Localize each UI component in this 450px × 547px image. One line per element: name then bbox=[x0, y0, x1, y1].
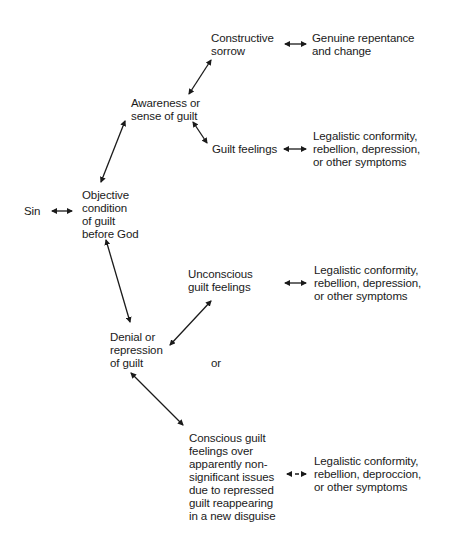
node-constructive-sorrow: Constructive sorrow bbox=[211, 32, 274, 58]
node-guilt-feelings: Guilt feelings bbox=[212, 143, 277, 156]
node-objective-condition: Objective condition of guilt before God bbox=[82, 189, 139, 241]
node-awareness: Awareness or sense of guilt bbox=[131, 97, 200, 123]
arrow-awareness-constructive bbox=[189, 60, 211, 94]
arrow-objective-denial bbox=[106, 240, 130, 322]
node-conscious-guilt: Conscious guilt feelings over apparently… bbox=[189, 432, 276, 523]
node-symptoms-3: Legalistic conformity, rebellion, deproc… bbox=[314, 455, 421, 494]
arrow-awareness-guiltfeelings bbox=[193, 122, 207, 143]
node-symptoms-1: Legalistic conformity, rebellion, depres… bbox=[313, 130, 420, 169]
node-denial-repression: Denial or repression of guilt bbox=[110, 331, 163, 370]
arrow-denial-conscious bbox=[131, 373, 183, 425]
node-symptoms-2: Legalistic conformity, rebellion, depres… bbox=[314, 264, 421, 303]
node-sin: Sin bbox=[24, 205, 40, 218]
or-label: or bbox=[211, 357, 221, 370]
node-unconscious-guilt: Unconscious guilt feelings bbox=[188, 268, 253, 294]
arrow-objective-awareness bbox=[101, 121, 125, 182]
node-genuine-repentance: Genuine repentance and change bbox=[312, 32, 414, 58]
arrow-denial-unconscious bbox=[170, 301, 211, 345]
